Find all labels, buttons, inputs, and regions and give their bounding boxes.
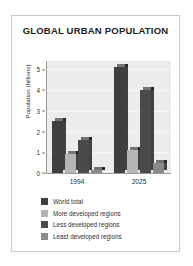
- y-tick-label: 1: [36, 149, 45, 156]
- legend-swatch: [41, 233, 48, 240]
- legend-label: Least developed regions: [53, 233, 122, 240]
- bar-front-face: [153, 163, 164, 173]
- x-tick-label: 1994: [70, 178, 85, 185]
- x-tick-label: 2025: [132, 178, 147, 185]
- bar-less-developed-regions-2025: [140, 90, 151, 173]
- bar-front-face: [78, 140, 89, 173]
- plot-wrapper: Population (billions) 012345 19942025: [12, 16, 181, 178]
- bar-side-face: [102, 167, 105, 170]
- gridline: [47, 69, 171, 70]
- bar-front-face: [114, 67, 125, 173]
- legend-label: Less developed regions: [53, 221, 120, 228]
- y-tick-label: 2: [36, 128, 45, 135]
- bar-side-face: [151, 87, 154, 170]
- bar-more-developed-regions-1994: [65, 154, 76, 173]
- bar-front-face: [65, 154, 76, 173]
- chart-legend: World totalMore developed regionsLess de…: [41, 196, 171, 242]
- bar-side-face: [89, 137, 92, 170]
- bar-less-developed-regions-1994: [78, 140, 89, 173]
- bar-front-face: [127, 150, 138, 173]
- chart-figure: GLOBAL URBAN POPULATION Population (bill…: [11, 15, 180, 252]
- legend-swatch: [41, 210, 48, 217]
- bar-front-face: [52, 121, 63, 173]
- y-tick-label: 4: [36, 87, 45, 94]
- legend-swatch: [41, 221, 48, 228]
- legend-item: More developed regions: [41, 208, 171, 220]
- bar-front-face: [91, 170, 102, 173]
- legend-label: More developed regions: [53, 210, 121, 217]
- bar-least-developed-regions-1994: [91, 170, 102, 173]
- bar-more-developed-regions-2025: [127, 150, 138, 173]
- legend-label: World total: [53, 198, 83, 205]
- legend-item: Less developed regions: [41, 219, 171, 231]
- y-tick-label: 5: [36, 66, 45, 73]
- bar-least-developed-regions-2025: [153, 163, 164, 173]
- y-tick-label: 3: [36, 107, 45, 114]
- y-axis-ticks: 012345: [12, 16, 45, 178]
- legend-item: Least developed regions: [41, 231, 171, 243]
- legend-item: World total: [41, 196, 171, 208]
- legend-swatch: [41, 198, 48, 205]
- bar-world-total-2025: [114, 67, 125, 173]
- bar-world-total-1994: [52, 121, 63, 173]
- x-axis-line: [45, 173, 171, 174]
- y-tick-label: 0: [36, 170, 45, 177]
- bar-front-face: [140, 90, 151, 173]
- bar-side-face: [164, 160, 167, 170]
